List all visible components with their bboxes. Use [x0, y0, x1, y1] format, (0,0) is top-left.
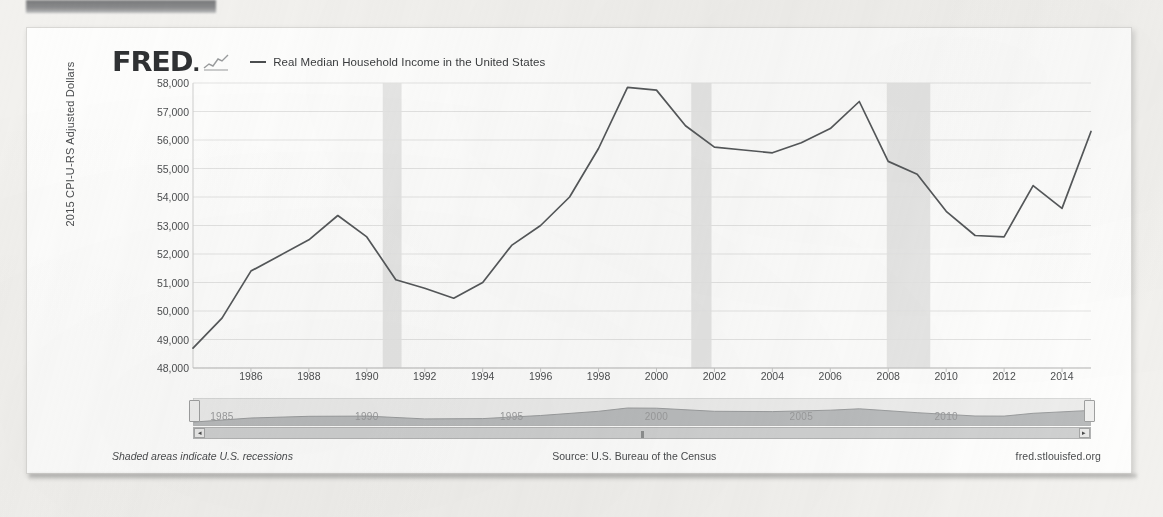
x-axis-tick: 2012: [992, 370, 1015, 382]
source-note: Source: U.S. Bureau of the Census: [552, 450, 716, 462]
navigator-year-label: 1985: [210, 411, 233, 422]
x-axis-tick: 1996: [529, 370, 552, 382]
x-axis-tick: 2002: [703, 370, 726, 382]
income-data-line: [193, 87, 1091, 348]
scroll-right-arrow-icon[interactable]: ▸: [1079, 428, 1090, 438]
x-axis-tick: 2008: [877, 370, 900, 382]
navigator-scrollbar[interactable]: ◂ ||| ▸: [193, 427, 1091, 439]
navigator-year-label: 1995: [500, 411, 523, 422]
navigator-year-label: 2005: [790, 411, 813, 422]
axis-lines: [193, 83, 1091, 372]
x-axis-tick: 1986: [239, 370, 262, 382]
x-axis-tick: 2006: [819, 370, 842, 382]
x-axis-tick: 1988: [297, 370, 320, 382]
scroll-left-arrow-icon[interactable]: ◂: [194, 428, 205, 438]
recession-note: Shaded areas indicate U.S. recessions: [112, 450, 293, 462]
navigator-year-label: 2000: [645, 411, 668, 422]
navigator-year-label: 2010: [934, 411, 957, 422]
fred-url[interactable]: fred.stlouisfed.org: [1016, 450, 1101, 462]
chart-footer: Shaded areas indicate U.S. recessions So…: [112, 450, 1101, 462]
navigator-right-handle[interactable]: [1084, 400, 1095, 422]
x-axis-tick: 1992: [413, 370, 436, 382]
x-axis-tick: 2010: [934, 370, 957, 382]
x-axis-tick: 1994: [471, 370, 494, 382]
x-axis-tick: 2000: [645, 370, 668, 382]
x-axis-tick: 2004: [761, 370, 784, 382]
scrollbar-grip-icon[interactable]: |||: [640, 429, 643, 438]
x-axis-tick: 1990: [355, 370, 378, 382]
x-axis-tick: 1998: [587, 370, 610, 382]
x-axis-tick: 2014: [1050, 370, 1073, 382]
navigator-year-label: 1990: [355, 411, 378, 422]
x-axis-ticks: 1986198819901992199419961998200020022004…: [27, 370, 1131, 386]
gridlines: [193, 83, 1091, 368]
fred-chart-card: FRED. Real Median Household Income in th…: [26, 27, 1132, 474]
navigator-left-handle[interactable]: [189, 400, 200, 422]
range-navigator[interactable]: 198519901995200020052010 ◂ ||| ▸: [193, 398, 1091, 440]
top-dark-bar: [26, 0, 216, 13]
